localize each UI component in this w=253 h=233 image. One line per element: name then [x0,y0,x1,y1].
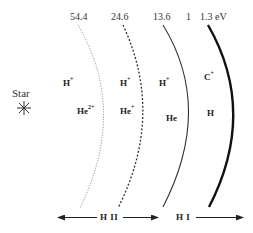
species-charge: 2+ [88,104,94,110]
energy-label-1-3-ev: 1.3 eV [200,12,227,22]
species-base: H [63,78,70,88]
zone1-species-h-plus: H+ [63,79,73,88]
species-base: He [166,113,177,123]
ionization-front-24-6 [118,25,143,208]
species-base: He [77,106,88,116]
zone4-species-h: H [207,109,214,118]
species-charge: + [211,70,214,76]
ionization-front-54-4 [78,25,104,208]
diagram-canvas [0,0,253,233]
zone4-species-c-plus: C+ [204,73,214,82]
species-charge: + [70,76,73,82]
species-charge: + [127,76,130,82]
zone3-species-h-plus: H+ [159,79,169,88]
energy-label-13-6: 13.6 [153,12,171,22]
species-base: H [159,78,166,88]
species-base: H [120,78,127,88]
species-charge: + [131,104,134,110]
energy-label-1: 1 [186,12,191,22]
region-label-h1: H I [176,213,190,222]
region-label-h2: H II [100,213,118,222]
star-asterisk-icon [17,101,31,115]
zone2-species-he-plus: He+ [120,107,134,116]
species-base: H [207,108,214,118]
species-base: He [120,106,131,116]
species-charge: + [166,76,169,82]
star-label: Star [12,88,30,99]
zone1-species-he-2plus: He2+ [77,107,94,116]
energy-label-54-4: 54.4 [70,12,88,22]
energy-label-24-6: 24.6 [111,12,129,22]
zone2-species-h-plus: H+ [120,79,130,88]
species-base: C [204,72,211,82]
zone3-species-he: He [166,114,177,123]
